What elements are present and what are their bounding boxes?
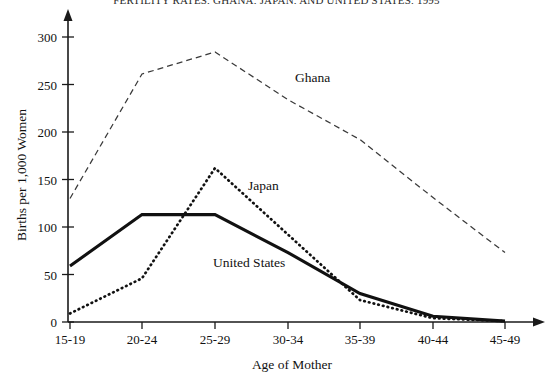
x-tick-label-15-19: 15-19 <box>55 332 85 347</box>
y-tick-label-300: 300 <box>38 30 58 45</box>
y-tick-label-50: 50 <box>44 268 57 283</box>
series-line-ghana <box>70 52 505 253</box>
y-axis-label: Births per 1,000 Women <box>14 109 29 241</box>
x-tick-label-25-29: 25-29 <box>200 332 230 347</box>
series-label-japan: Japan <box>248 178 279 193</box>
chart-figure: FERTILITY RATES, GHANA, JAPAN, AND UNITE… <box>0 0 553 373</box>
y-tick-label-150: 150 <box>38 173 58 188</box>
y-tick-label-100: 100 <box>38 220 58 235</box>
x-tick-label-30-34: 30-34 <box>273 332 304 347</box>
x-axis-label: Age of Mother <box>252 357 333 372</box>
x-tick-label-40-44: 40-44 <box>418 332 449 347</box>
y-tick-label-250: 250 <box>38 78 58 93</box>
series-label-ghana: Ghana <box>295 70 330 85</box>
y-tick-label-200: 200 <box>38 125 58 140</box>
x-tick-marks <box>70 322 505 329</box>
x-tick-label-45-49: 45-49 <box>490 332 520 347</box>
x-tick-label-20-24: 20-24 <box>127 332 158 347</box>
series-label-united-states: United States <box>213 255 285 270</box>
x-tick-label-35-39: 35-39 <box>345 332 375 347</box>
series-line-japan <box>70 168 505 321</box>
series-line-united-states <box>70 215 505 322</box>
y-tick-label-0: 0 <box>51 315 58 330</box>
chart-canvas: 0 50 100 150 200 250 300 15-19 20-24 25-… <box>0 0 553 373</box>
